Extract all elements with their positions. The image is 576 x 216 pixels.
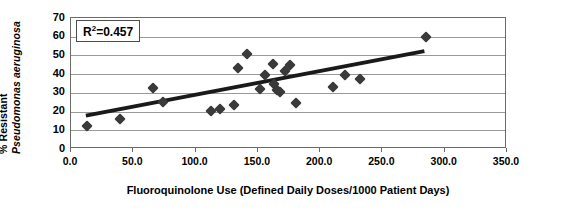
x-axis-tick-mark <box>506 148 507 152</box>
x-axis-tick-label: 300.0 <box>421 156 467 167</box>
y-axis-tick-label: 50 <box>43 49 65 60</box>
x-axis-title: Fluoroquinolone Use (Defined Daily Doses… <box>0 184 576 196</box>
r-squared-value: =0.457 <box>96 25 133 39</box>
data-point <box>205 105 216 116</box>
x-axis-tick-label: 200.0 <box>296 156 342 167</box>
r-squared-label: R <box>83 25 92 39</box>
y-axis-tick-label: 10 <box>43 124 65 135</box>
y-axis-tick-label: 30 <box>43 86 65 97</box>
x-axis-tick-mark <box>444 148 445 152</box>
gridline <box>71 55 505 56</box>
y-axis-title: % Resistant Pseudomonas aeruginosa <box>8 8 38 158</box>
x-axis-tick-mark <box>319 148 320 152</box>
x-axis-tick-mark <box>381 148 382 152</box>
data-point <box>291 97 302 108</box>
y-axis-tick-label: 70 <box>43 12 65 23</box>
x-axis-tick-label: 50.0 <box>109 156 155 167</box>
x-axis-tick-label: 0.0 <box>47 156 93 167</box>
trendline-segment <box>86 51 425 116</box>
y-axis-title-line-2: Pseudomonas aeruginosa <box>10 21 22 154</box>
scatter-chart: % Resistant Pseudomonas aeruginosa 01020… <box>0 0 576 216</box>
data-point <box>241 48 252 59</box>
x-axis-tick-label: 100.0 <box>172 156 218 167</box>
data-point <box>339 69 350 80</box>
x-axis-tick-mark <box>195 148 196 152</box>
r-squared-annotation: R2=0.457 <box>76 20 140 42</box>
x-axis-tick-mark <box>70 148 71 152</box>
gridline <box>71 74 505 75</box>
x-axis-tick-label: 350.0 <box>483 156 529 167</box>
x-axis-tick-label: 150.0 <box>234 156 280 167</box>
data-point <box>114 114 125 125</box>
data-point <box>327 82 338 93</box>
data-point <box>267 58 278 69</box>
data-point <box>158 97 169 108</box>
x-axis-tick-label: 250.0 <box>358 156 404 167</box>
y-axis-tick-label: 20 <box>43 105 65 116</box>
gridline <box>71 112 505 113</box>
data-point <box>420 31 431 42</box>
data-point <box>232 62 243 73</box>
data-point <box>260 69 271 80</box>
x-axis-tick-mark <box>132 148 133 152</box>
y-axis-tick-label: 0 <box>43 143 65 154</box>
x-axis-tick-mark <box>257 148 258 152</box>
gridline <box>71 130 505 131</box>
data-point <box>229 100 240 111</box>
y-axis-tick-label: 40 <box>43 68 65 79</box>
gridline <box>71 93 505 94</box>
y-axis-title-line-1: % Resistant <box>0 93 9 154</box>
y-axis-tick-label: 60 <box>43 30 65 41</box>
